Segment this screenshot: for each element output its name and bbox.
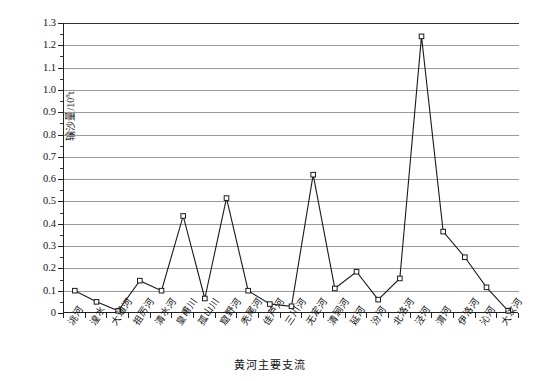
x-tick-mark: [345, 313, 346, 318]
data-point-marker-18: [463, 255, 468, 260]
y-tick-label-1.2: 1.2: [8, 40, 56, 50]
x-tick-mark: [475, 313, 476, 318]
x-tick-mark: [453, 313, 454, 318]
series-line-sediment-discharge: [64, 23, 519, 313]
data-point-marker-8: [246, 288, 251, 293]
x-tick-mark: [63, 313, 64, 318]
y-tick-label-0.5: 0.5: [8, 196, 56, 206]
data-point-marker-1: [94, 300, 99, 305]
x-tick-mark: [258, 313, 259, 318]
y-tick-label-0.2: 0.2: [8, 263, 56, 273]
y-tick-label-1.0: 1.0: [8, 85, 56, 95]
x-tick-mark: [150, 313, 151, 318]
y-tick-label-0.4: 0.4: [8, 219, 56, 229]
x-tick-mark: [388, 313, 389, 318]
data-point-marker-0: [73, 288, 78, 293]
x-tick-mark: [323, 313, 324, 318]
data-point-marker-19: [484, 285, 489, 290]
series-polyline: [75, 36, 508, 310]
data-point-marker-11: [311, 172, 316, 177]
x-tick-mark: [85, 313, 86, 318]
data-point-marker-15: [398, 276, 403, 281]
x-tick-mark: [410, 313, 411, 318]
y-tick-label-0.3: 0.3: [8, 241, 56, 251]
y-tick-label-0.8: 0.8: [8, 130, 56, 140]
x-tick-mark: [280, 313, 281, 318]
data-point-marker-13: [354, 269, 359, 274]
y-tick-label-0.7: 0.7: [8, 152, 56, 162]
y-tick-label-0.6: 0.6: [8, 174, 56, 184]
data-point-marker-3: [138, 278, 143, 283]
y-tick-label-0.9: 0.9: [8, 107, 56, 117]
y-tick-label-1.1: 1.1: [8, 63, 56, 73]
y-tick-label-0: 0: [8, 308, 56, 318]
plot-area: [63, 23, 518, 313]
x-axis-title: 黄河主要支流: [0, 356, 540, 372]
x-tick-mark: [518, 313, 519, 318]
data-point-marker-4: [159, 288, 164, 293]
data-point-marker-7: [224, 196, 229, 201]
y-tick-label-0.1: 0.1: [8, 286, 56, 296]
x-tick-mark: [215, 313, 216, 318]
data-point-marker-5: [181, 214, 186, 219]
sediment-discharge-line-chart: 输沙量/108t 1.31.21.11.00.90.80.70.60.50.40…: [0, 0, 540, 381]
data-point-marker-14: [376, 297, 381, 302]
data-point-marker-17: [441, 229, 446, 234]
y-tick-label-1.3: 1.3: [8, 18, 56, 28]
data-point-marker-12: [333, 286, 338, 291]
data-point-marker-6: [203, 296, 208, 301]
data-point-marker-16: [419, 34, 424, 39]
x-tick-mark: [193, 313, 194, 318]
x-tick-mark: [128, 313, 129, 318]
